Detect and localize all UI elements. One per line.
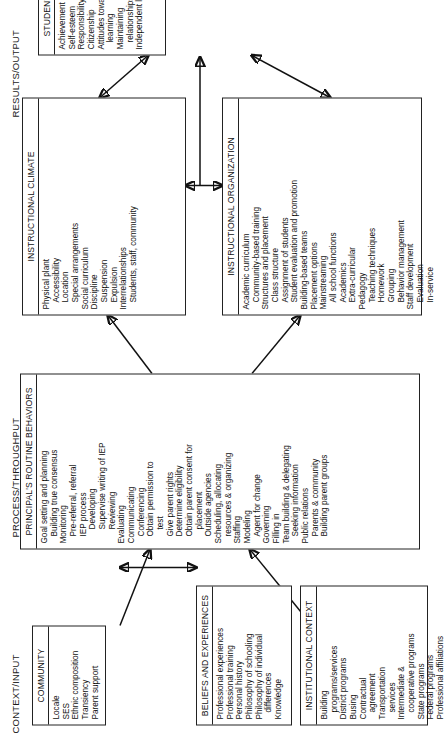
list-item: District programs [339, 590, 349, 719]
box-student-outcomes-items: AchievementSelf-esteemResponsibilityCiti… [55, 0, 165, 54]
list-item: Developing [88, 378, 98, 543]
list-item: cooperative programs [407, 590, 417, 719]
list-item: Mainstreaming [319, 102, 329, 309]
list-item: Extra-curricular [348, 102, 358, 309]
box-instructional-climate-items: Physical plantAccessibilityLocationSpeci… [39, 98, 185, 314]
list-item: Interrelationships [119, 102, 129, 309]
list-item: Staffing [233, 378, 243, 543]
list-item: Staff development [406, 102, 416, 309]
list-item: Locale [52, 630, 62, 719]
list-item: Ethnic composition [71, 630, 81, 719]
box-instructional-organization-title: INSTRUCTIONAL ORGANIZATION [223, 98, 239, 314]
list-item: Philosophy of schooling [245, 590, 255, 719]
list-item: Federal programs [426, 590, 436, 719]
list-item: Responsibility [77, 0, 87, 49]
box-instructional-organization: INSTRUCTIONAL ORGANIZATION Academic curr… [222, 97, 422, 315]
box-instructional-climate-title: INSTRUCTIONAL CLIMATE [23, 98, 39, 314]
list-item: Professional experiences [216, 590, 226, 719]
list-item: Community-based training [252, 102, 262, 309]
box-institutional-context-items: Buildingprograms/servicesDistrict progra… [317, 586, 448, 724]
list-item: Teaching techniques [368, 102, 378, 309]
list-item: Homework [377, 102, 387, 309]
box-beliefs-and-experiences-title: BELIEFS AND EXPERIENCES [197, 586, 213, 724]
list-item: Discipline [90, 102, 100, 309]
list-item: State programs [417, 590, 427, 719]
box-beliefs-and-experiences: BELIEFS AND EXPERIENCES Professional exp… [196, 585, 292, 725]
list-item: Building parent groups [320, 378, 330, 543]
box-principals-routine-behaviors-items: Goal setting and planningBuilding true c… [37, 374, 419, 548]
list-item: Modeling [243, 378, 253, 543]
list-item: Determine eligibility [175, 378, 185, 543]
list-item: Assignment of students [281, 102, 291, 309]
box-community-title: COMMUNITY [33, 626, 49, 724]
list-item: Attitudes toward [97, 0, 107, 49]
list-item: Knowledge [274, 590, 284, 719]
list-item: differences [264, 590, 274, 719]
list-item: Academic curriculum [242, 102, 252, 309]
box-instructional-climate: INSTRUCTIONAL CLIMATE Physical plantAcce… [22, 97, 186, 315]
list-item: Evaluation [416, 102, 426, 309]
box-student-outcomes: STUDENT OUTCOMES AchievementSelf-esteemR… [38, 0, 166, 55]
list-item: Contractual [359, 590, 369, 719]
box-instructional-organization-items: Academic curriculumCommunity-based train… [239, 98, 438, 314]
list-item: Suspension [100, 102, 110, 309]
list-item: services [388, 590, 398, 719]
list-item: Parent support [91, 630, 101, 719]
list-item: Physical plant [42, 102, 52, 309]
list-item: Class structure [271, 102, 281, 309]
box-beliefs-and-experiences-items: Professional experiencesProfessional tra… [213, 586, 291, 724]
list-item: Obtain parent consent for [185, 378, 195, 543]
list-item: Scheduling, allocating [214, 378, 224, 543]
list-item: IEP process [79, 378, 89, 543]
list-item: Monitoring [59, 378, 69, 543]
list-item: Obtain permission to [146, 378, 156, 543]
list-item: All school functions [329, 102, 339, 309]
list-item: Achievement [58, 0, 68, 49]
list-item: Philosophy of individual [255, 590, 265, 719]
list-item: Intermediate & [397, 590, 407, 719]
box-community-items: LocaleSESEthnic compositionTransiencyPar… [49, 626, 105, 724]
list-item: Structures and placement [261, 102, 271, 309]
list-item: Pre-referral, referral [69, 378, 79, 543]
list-item: Student evaluation and promotion [290, 102, 300, 309]
list-item: Building-based teams [300, 102, 310, 309]
list-item: Transportation [378, 590, 388, 719]
list-item: Self-esteem [68, 0, 78, 49]
list-item: Citizenship [87, 0, 97, 49]
list-item: agreement [368, 590, 378, 719]
list-item: Location [61, 102, 71, 309]
list-item: Filling in [272, 378, 282, 543]
list-item: Reviewing [108, 378, 118, 543]
list-item: Maintaining [116, 0, 126, 49]
list-item: Seeking information [291, 378, 301, 543]
list-item: Building true consensus [50, 378, 60, 543]
box-principals-routine-behaviors-title: PRINCIPAL'S ROUTINE BEHAVIORS [21, 374, 37, 548]
list-item: Governing [262, 378, 272, 543]
list-item: Supervise writing of IEP [98, 378, 108, 543]
list-item: Special arrangements [71, 102, 81, 309]
list-item: Personal history [235, 590, 245, 719]
box-student-outcomes-title: STUDENT OUTCOMES [39, 0, 55, 54]
list-item: Evaluating [117, 378, 127, 543]
list-item: placement [195, 378, 205, 543]
list-item: Busing [349, 590, 359, 719]
list-item: Goal setting and planning [40, 378, 50, 543]
list-item: Agent for change [253, 378, 263, 543]
list-item: Social curriculum [81, 102, 91, 309]
list-item: Academics [339, 102, 349, 309]
box-institutional-context-title: INSTITUTIONAL CONTEXT [301, 586, 317, 724]
list-item: Accessibility [52, 102, 62, 309]
list-item: Professional training [226, 590, 236, 719]
list-item: SES [62, 630, 72, 719]
list-item: Pedagogy [358, 102, 368, 309]
list-item: Students, staff, community [129, 102, 139, 309]
list-item: Parents & community [311, 378, 321, 543]
list-item: Transiency [81, 630, 91, 719]
list-item: resources & organizing [224, 378, 234, 543]
list-item: Give parent rights [166, 378, 176, 543]
list-item: Building [320, 590, 330, 719]
list-item: Outside agencies [204, 378, 214, 543]
box-community: COMMUNITY LocaleSESEthnic compositionTra… [32, 625, 106, 725]
box-institutional-context: INSTITUTIONAL CONTEXT Buildingprograms/s… [300, 585, 428, 725]
